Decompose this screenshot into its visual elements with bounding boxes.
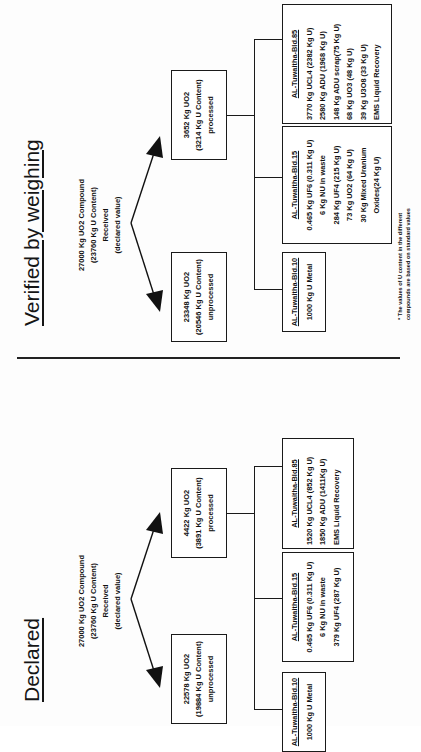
verified-processed-box: 3652 Kg UO2 (3214 Kg U Content) processe…	[171, 70, 227, 160]
connector	[254, 39, 282, 40]
compound-line: 1000 Kg U Metal	[303, 256, 317, 328]
connector	[254, 39, 255, 290]
compound-line: 3770 Kg UCL4 (2382 Kg U)	[303, 8, 317, 120]
compound-line: Oxides(24 Kg U)	[370, 130, 384, 240]
connector	[227, 115, 254, 116]
box-line: (20546 Kg U Content)	[193, 259, 205, 335]
building-name: AL-Tuwaitha-Bld.15	[288, 130, 302, 240]
box-line: (3214 Kg U Content)	[193, 79, 205, 151]
compound-line: 39 Kg U3O8 (33 Kg U)	[357, 8, 371, 120]
compound-line: 6 Kg NU in waste	[316, 130, 330, 240]
footnote: * The values of U content in the differe…	[396, 200, 412, 320]
box-line: processed	[205, 96, 217, 134]
compound-line: 2580 Kg ADU (1968 Kg U)	[316, 8, 330, 120]
compound-line: EMS Liquid Recovery	[370, 8, 384, 120]
compound-line: 68 Kg UO3 (48 Kg U)	[343, 8, 357, 120]
compound-line: 0.465 Kg UF6 (0.311 Kg U)	[303, 130, 317, 240]
compound-line: 30 Kg Mixed Uranium	[357, 130, 371, 240]
connector	[254, 289, 282, 290]
compound-line: 148 Kg ADU scrap(75 Kg U)	[330, 8, 344, 120]
building-name: AL-Tuwaitha-Bld.85	[288, 8, 302, 120]
verified-bld10-box: AL-Tuwaitha-Bld.10 1000 Kg U Metal	[282, 252, 326, 332]
box-line: 3652 Kg UO2	[181, 92, 193, 138]
building-name: AL-Tuwaitha-Bld.10	[288, 256, 302, 328]
verified-bld85-box: AL-Tuwaitha-Bld.85 3770 Kg UCL4 (2382 Kg…	[282, 4, 392, 124]
connector	[254, 177, 282, 178]
compound-line: 284 Kg UF4 (215 Kg U)	[330, 130, 344, 240]
verified-bld15-box: AL-Tuwaitha-Bld.15 0.465 Kg UF6 (0.311 K…	[282, 126, 392, 244]
box-line: 23348 Kg UO2	[181, 272, 193, 322]
verified-unprocessed-box: 23348 Kg UO2 (20546 Kg U Content) unproc…	[171, 252, 227, 342]
compound-line: 73 Kg UO2 (64 Kg U)	[343, 130, 357, 240]
box-line: unprocessed	[205, 274, 217, 321]
